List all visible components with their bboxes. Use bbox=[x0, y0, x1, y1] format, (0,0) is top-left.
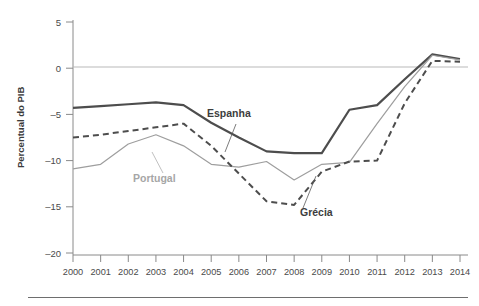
x-tick-label: 2013 bbox=[422, 267, 442, 277]
bottom-divider-rule bbox=[28, 297, 468, 298]
x-tick-label: 2014 bbox=[450, 267, 470, 277]
series-label-portugal: Portugal bbox=[133, 172, 176, 184]
x-tick-label: 2001 bbox=[90, 267, 110, 277]
y-tick-label: 5 bbox=[56, 17, 61, 28]
x-tick-label: 2011 bbox=[367, 267, 387, 277]
x-tick-label: 2005 bbox=[201, 267, 221, 277]
y-tick-label: –10 bbox=[45, 155, 61, 166]
y-tick-label: 0 bbox=[56, 63, 61, 74]
y-tick-label: –20 bbox=[45, 248, 61, 259]
y-tick-label: –5 bbox=[50, 109, 61, 120]
x-tick-label: 2008 bbox=[284, 267, 304, 277]
x-tick-label: 2004 bbox=[173, 267, 193, 277]
x-tick-label: 2006 bbox=[229, 267, 249, 277]
x-tick-label: 2000 bbox=[63, 267, 83, 277]
y-axis-title: Percentual do PIB bbox=[15, 87, 26, 168]
x-tick-label: 2012 bbox=[394, 267, 414, 277]
x-tick-label: 2009 bbox=[312, 267, 332, 277]
series-label-espanha: Espanha bbox=[207, 107, 251, 119]
y-tick-label: –15 bbox=[45, 201, 61, 212]
x-tick-label: 2002 bbox=[118, 267, 138, 277]
chart-background bbox=[0, 0, 479, 306]
series-label-grcia: Grécia bbox=[300, 206, 333, 218]
gdp-deficit-line-chart: 50–5–10–15–20 20002001200220032004200520… bbox=[0, 0, 479, 306]
x-tick-label: 2010 bbox=[339, 267, 359, 277]
x-tick-label: 2003 bbox=[146, 267, 166, 277]
x-tick-label: 2007 bbox=[256, 267, 276, 277]
